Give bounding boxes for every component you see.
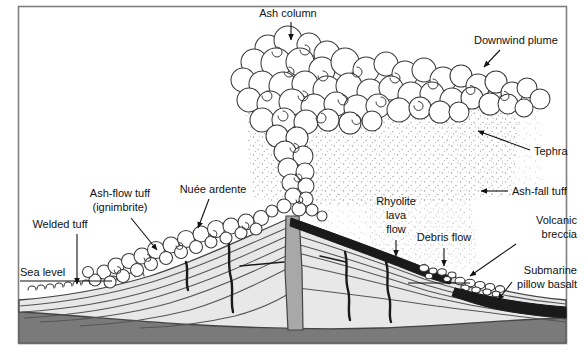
label-rhyolite-lava-flow-line3: flow [386, 223, 406, 235]
label-submarine-pillow-basalt-line1: Submarine [524, 264, 577, 276]
label-nuee-ardente: Nuée ardente [180, 183, 247, 195]
diagram-canvas: Ash column Downwind plume Tephra Ash-fal… [0, 0, 585, 358]
central-conduit [285, 216, 303, 330]
label-submarine-pillow-basalt-line2: pillow basalt [517, 278, 577, 290]
label-rhyolite-lava-flow-line2: lava [386, 209, 407, 221]
label-ash-fall-tuff: Ash-fall tuff [512, 185, 568, 197]
label-tephra: Tephra [534, 145, 569, 157]
label-welded-tuff: Welded tuff [32, 218, 88, 230]
label-ash-flow-tuff-line2: (ignimbrite) [92, 201, 147, 213]
label-ash-flow-tuff-line1: Ash-flow tuff [90, 187, 151, 199]
label-ash-column: Ash column [259, 7, 316, 19]
label-rhyolite-lava-flow-line1: Rhyolite [376, 195, 416, 207]
label-downwind-plume: Downwind plume [474, 34, 558, 46]
volcano-diagram-figure: Ash column Downwind plume Tephra Ash-fal… [0, 0, 585, 358]
label-volcanic-breccia-line2: breccia [542, 228, 578, 240]
label-debris-flow: Debris flow [417, 231, 471, 243]
label-volcanic-breccia-line1: Volcanic [536, 214, 577, 226]
label-sea-level: Sea level [20, 266, 65, 278]
